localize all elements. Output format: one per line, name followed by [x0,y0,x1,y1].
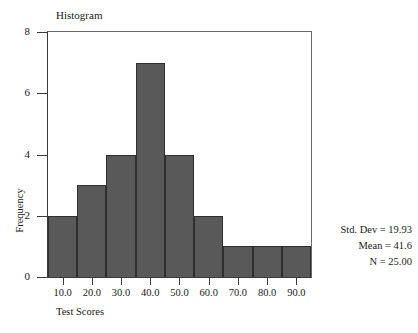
histogram-bar [282,246,311,277]
bar-slot [223,32,252,277]
y-axis-tick-mark [37,216,47,217]
x-axis-tick-label: 90.0 [282,287,311,299]
x-axis-tick-slot [106,278,135,285]
bar-slot [194,32,223,277]
x-axis-tick-slot [223,278,252,285]
x-axis-tick-mark [179,278,180,285]
stat-mean: Mean = 41.6 [308,238,412,254]
statistics-annotation: Std. Dev = 19.93 Mean = 41.6 N = 25.00 [308,222,412,270]
histogram-bar [136,63,165,277]
x-axis-tick-label: 70.0 [223,287,252,299]
bar-slot [165,32,194,277]
histogram-bar [106,155,135,278]
x-axis-tick-label: 30.0 [106,287,135,299]
histogram-figure: Histogram Frequency 10.020.030.040.050.0… [0,0,418,333]
chart-title: Histogram [56,9,102,22]
bar-slot [253,32,282,277]
histogram-bar [165,155,194,278]
y-axis-tick-label: 6 [0,87,30,98]
x-axis-tick-mark [150,278,151,285]
y-axis-tick-mark [37,93,47,94]
x-axis-tick-label: 20.0 [77,287,106,299]
x-axis-tick-mark [267,278,268,285]
y-axis-tick-label: 8 [0,26,30,37]
x-axis-tick-marks [48,278,311,285]
x-axis-tick-slot [136,278,165,285]
y-axis-tick-mark [37,32,47,33]
x-axis-tick-labels: 10.020.030.040.050.060.070.080.090.0 [48,287,311,299]
x-axis-tick-mark [63,278,64,285]
y-axis-tick-mark [37,155,47,156]
y-axis-tick-label: 2 [0,210,30,221]
histogram-bar [253,246,282,277]
x-axis-tick-mark [296,278,297,285]
bar-slot [136,32,165,277]
histogram-bar [77,185,106,277]
x-axis-tick-slot [194,278,223,285]
x-axis-tick-label: 40.0 [136,287,165,299]
histogram-bar [194,216,223,277]
x-axis-tick-slot [77,278,106,285]
y-axis-tick-label: 0 [0,271,30,282]
x-axis-tick-slot [48,278,77,285]
x-axis-tick-slot [282,278,311,285]
stat-std-dev: Std. Dev = 19.93 [308,222,412,238]
x-axis-tick-mark [92,278,93,285]
x-axis-tick-slot [165,278,194,285]
bar-slot [77,32,106,277]
bar-slot [106,32,135,277]
y-axis-tick-label: 4 [0,149,30,160]
x-axis-tick-label: 10.0 [48,287,77,299]
x-axis-tick-label: 60.0 [194,287,223,299]
bar-slot [48,32,77,277]
x-axis-tick-slot [253,278,282,285]
x-axis-tick-label: 50.0 [165,287,194,299]
bar-series [48,32,311,277]
x-axis-tick-label: 80.0 [253,287,282,299]
histogram-bar [48,216,77,277]
stat-n: N = 25.00 [308,254,412,270]
y-axis-tick-mark [37,277,47,278]
histogram-bar [223,246,252,277]
x-axis-tick-mark [209,278,210,285]
x-axis-title: Test Scores [56,306,104,318]
bar-slot [282,32,311,277]
x-axis-tick-mark [238,278,239,285]
x-axis-tick-mark [121,278,122,285]
